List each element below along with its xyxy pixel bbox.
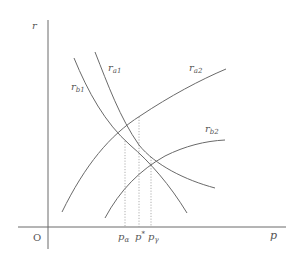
tick-p-alpha: pα <box>118 231 129 244</box>
tick-p-gamma: pγ <box>148 231 159 244</box>
svg-text:ra1: ra1 <box>108 62 121 75</box>
origin-label: O <box>33 232 41 243</box>
svg-text:ra2: ra2 <box>189 62 203 75</box>
curve-r-b2 <box>105 140 225 218</box>
y-axis-label: r <box>32 20 38 31</box>
svg-text:rb2: rb2 <box>205 123 219 136</box>
label-r-a1: ra1 <box>108 62 121 75</box>
label-r-b2: rb2 <box>205 123 219 136</box>
svg-text:pγ: pγ <box>148 231 159 244</box>
x-axis-label: p <box>270 229 277 242</box>
tick-p-star: p* <box>135 230 145 242</box>
svg-text:p*: p* <box>135 230 145 242</box>
curve-r-b1 <box>74 58 187 213</box>
curve-r-a2 <box>62 69 226 212</box>
price-rate-diagram: r p O rb1 ra1 ra2 rb2 pα p* pγ <box>0 0 300 259</box>
svg-text:pα: pα <box>118 231 129 244</box>
svg-text:rb1: rb1 <box>71 81 85 94</box>
label-r-a2: ra2 <box>189 62 203 75</box>
label-r-b1: rb1 <box>71 81 85 94</box>
